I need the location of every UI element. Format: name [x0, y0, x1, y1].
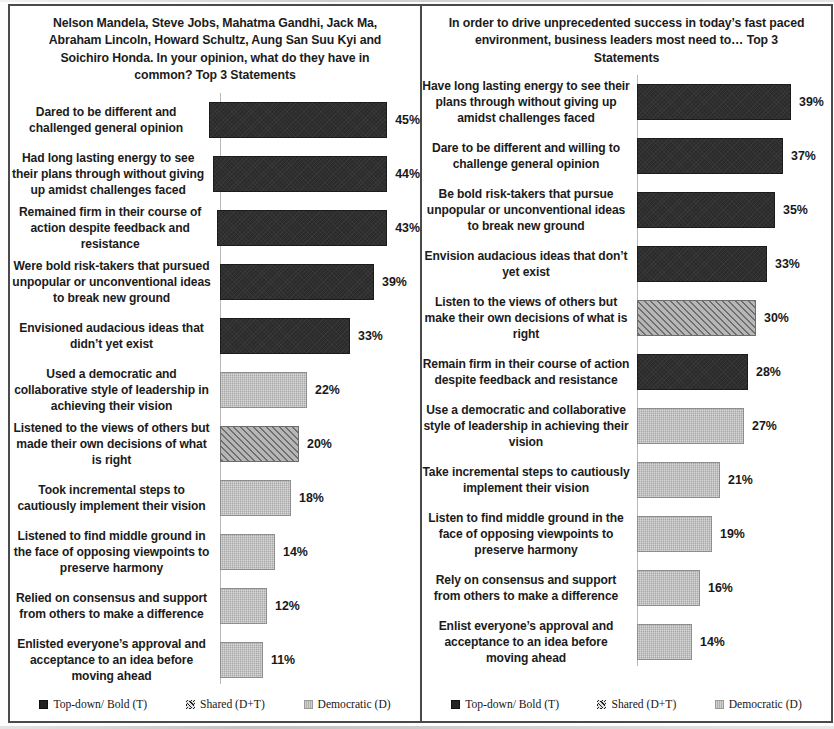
bar-wrapper: 28% — [637, 354, 831, 390]
bar-democratic — [220, 480, 291, 516]
bar-value-label: 45% — [387, 113, 420, 127]
bar-wrapper: 18% — [220, 480, 420, 516]
bar-value-label: 33% — [767, 257, 800, 271]
bar-value-label: 33% — [350, 329, 383, 343]
bar-value-label: 43% — [387, 221, 420, 235]
bar-value-label: 21% — [720, 473, 753, 487]
bar-topdown — [220, 264, 374, 300]
bar-category-label: Relied on consensus and support from oth… — [10, 590, 220, 622]
bar-shared — [220, 426, 299, 462]
bar-row: Listen to find middle ground in the face… — [422, 507, 831, 561]
legend-swatch-democratic-icon — [715, 700, 724, 709]
legend-item-democratic[interactable]: Democratic (D) — [715, 698, 802, 711]
legend-label: Democratic (D) — [729, 698, 802, 711]
bar-value-label: 39% — [791, 95, 824, 109]
bar-wrapper: 19% — [637, 516, 831, 552]
legend-item-shared[interactable]: Shared (D+T) — [597, 698, 676, 711]
bar-value-label: 28% — [748, 365, 781, 379]
bar-category-label: Listened to the views of others but made… — [10, 420, 220, 469]
bar-category-label: Took incremental steps to cautiously imp… — [10, 482, 220, 514]
bar-row: Use a democratic and collaborative style… — [422, 399, 831, 453]
bar-wrapper: 39% — [637, 84, 831, 120]
document-page: Nelson Mandela, Steve Jobs, Mahatma Gand… — [0, 0, 834, 729]
bar-row: Have long lasting energy to see their pl… — [422, 75, 831, 129]
bar-row: Were bold risk-takers that pursued unpop… — [10, 255, 420, 309]
bar-democratic — [637, 570, 700, 606]
bar-democratic — [220, 372, 307, 408]
bar-rows-right: Have long lasting energy to see their pl… — [422, 75, 831, 669]
bar-topdown — [209, 102, 387, 138]
bar-wrapper: 14% — [220, 534, 420, 570]
bar-row: Enlist everyone’s approval and acceptanc… — [422, 615, 831, 669]
bar-row: Remain firm in their course of action de… — [422, 345, 831, 399]
legend-right: Top-down/ Bold (T)Shared (D+T)Democratic… — [422, 698, 831, 711]
bar-democratic — [637, 516, 712, 552]
bar-wrapper: 43% — [217, 210, 420, 246]
bar-wrapper: 37% — [637, 138, 831, 174]
bar-category-label: Listened to find middle ground in the fa… — [10, 528, 220, 577]
bar-row: Remained firm in their course of action … — [10, 201, 420, 255]
bar-wrapper: 27% — [637, 408, 831, 444]
legend-swatch-democratic-icon — [304, 700, 313, 709]
bar-category-label: Used a democratic and collaborative styl… — [10, 366, 220, 415]
legend-item-democratic[interactable]: Democratic (D) — [304, 698, 391, 711]
legend-label: Democratic (D) — [318, 698, 391, 711]
bar-category-label: Dare to be different and willing to chal… — [422, 140, 637, 172]
bar-value-label: 37% — [783, 149, 816, 163]
bar-category-label: Have long lasting energy to see their pl… — [422, 78, 637, 127]
legend-left: Top-down/ Bold (T)Shared (D+T)Democratic… — [10, 698, 420, 711]
bar-row: Relied on consensus and support from oth… — [10, 579, 420, 633]
bar-row: Enlisted everyone’s approval and accepta… — [10, 633, 420, 687]
bar-category-label: Enlisted everyone’s approval and accepta… — [10, 636, 220, 685]
bar-topdown — [637, 354, 748, 390]
bar-category-label: Remained firm in their course of action … — [10, 204, 217, 253]
bar-row: Listened to find middle ground in the fa… — [10, 525, 420, 579]
bar-wrapper: 44% — [213, 156, 420, 192]
legend-label: Top-down/ Bold (T) — [53, 698, 147, 711]
bar-topdown — [637, 246, 767, 282]
legend-item-topdown[interactable]: Top-down/ Bold (T) — [39, 698, 147, 711]
legend-item-shared[interactable]: Shared (D+T) — [186, 698, 265, 711]
bar-topdown — [220, 318, 350, 354]
bar-topdown — [213, 156, 387, 192]
bar-wrapper: 35% — [637, 192, 831, 228]
chart-title-left: Nelson Mandela, Steve Jobs, Mahatma Gand… — [10, 6, 420, 85]
bar-wrapper: 16% — [637, 570, 831, 606]
bar-category-label: Were bold risk-takers that pursued unpop… — [10, 258, 220, 307]
bar-democratic — [637, 462, 720, 498]
bar-row: Be bold risk-takers that pursue unpopula… — [422, 183, 831, 237]
chart-panel-left: Nelson Mandela, Steve Jobs, Mahatma Gand… — [8, 4, 421, 723]
chart-title-right: In order to drive unprecedented success … — [422, 6, 831, 67]
bar-row: Dare to be different and willing to chal… — [422, 129, 831, 183]
bar-value-label: 44% — [387, 167, 420, 181]
bar-row: Rely on consensus and support from other… — [422, 561, 831, 615]
bar-wrapper: 33% — [637, 246, 831, 282]
bar-category-label: Rely on consensus and support from other… — [422, 572, 637, 604]
bar-democratic — [220, 642, 263, 678]
plot-area-right: Have long lasting energy to see their pl… — [422, 75, 831, 670]
bar-row: Envision audacious ideas that don’t yet … — [422, 237, 831, 291]
bar-value-label: 19% — [712, 527, 745, 541]
bar-category-label: Envision audacious ideas that don’t yet … — [422, 248, 637, 280]
bar-value-label: 22% — [307, 383, 340, 397]
bar-value-label: 35% — [775, 203, 808, 217]
bar-value-label: 18% — [291, 491, 324, 505]
legend-swatch-topdown-icon — [451, 700, 460, 709]
bar-category-label: Dared to be different and challenged gen… — [10, 104, 209, 136]
bar-value-label: 20% — [299, 437, 332, 451]
bar-category-label: Envisioned audacious ideas that didn’t y… — [10, 320, 220, 352]
bar-democratic — [220, 534, 275, 570]
bar-category-label: Had long lasting energy to see their pla… — [10, 150, 213, 199]
bar-topdown — [217, 210, 387, 246]
bar-democratic — [637, 408, 744, 444]
bar-value-label: 16% — [700, 581, 733, 595]
legend-item-topdown[interactable]: Top-down/ Bold (T) — [451, 698, 559, 711]
bar-democratic — [220, 588, 267, 624]
legend-swatch-shared-icon — [597, 700, 606, 709]
bar-category-label: Be bold risk-takers that pursue unpopula… — [422, 186, 637, 235]
bar-row: Used a democratic and collaborative styl… — [10, 363, 420, 417]
legend-label: Top-down/ Bold (T) — [465, 698, 559, 711]
bar-row: Envisioned audacious ideas that didn’t y… — [10, 309, 420, 363]
bar-category-label: Take incremental steps to cautiously imp… — [422, 464, 637, 496]
bar-row: Listened to the views of others but made… — [10, 417, 420, 471]
